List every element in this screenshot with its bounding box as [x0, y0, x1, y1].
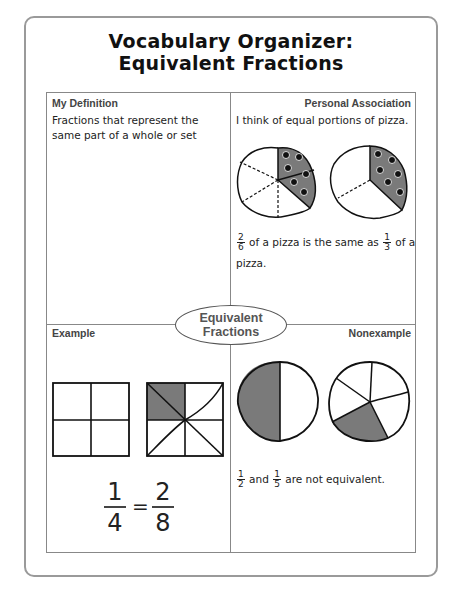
title-line-1: Vocabulary Organizer: [24, 30, 438, 52]
nonexample-sentence: 12 and 15 are not equivalent. [236, 470, 416, 489]
circle-halves-icon [234, 358, 322, 444]
equals-sign: = [132, 494, 146, 518]
fraction-two-eighths: 2 8 [152, 478, 174, 538]
fraction-one-third: 13 [383, 233, 391, 252]
association-label: Personal Association [236, 97, 411, 109]
center-term-line-2: Fractions [176, 325, 286, 339]
pizza-six-slices-icon [234, 140, 322, 222]
pizza-three-slices-icon [324, 140, 414, 222]
association-fraction-sentence: 26 of a pizza is the same as 13 of a [236, 233, 416, 252]
definition-label: My Definition [52, 97, 118, 109]
page-title: Vocabulary Organizer: Equivalent Fractio… [24, 30, 438, 74]
center-term-line-1: Equivalent [176, 311, 286, 325]
association-sentence-end: pizza. [236, 256, 266, 271]
definition-text: Fractions that represent the same part o… [52, 113, 224, 143]
square-fourths-icon [50, 380, 132, 460]
fraction-one-fourth: 1 4 [104, 478, 126, 538]
example-label: Example [52, 327, 95, 339]
center-term-oval: Equivalent Fractions [175, 305, 287, 345]
fraction-one-fifth: 15 [273, 470, 281, 489]
circle-fifths-icon [326, 358, 414, 444]
fraction-one-half: 12 [237, 470, 245, 489]
square-eighths-icon [144, 380, 226, 460]
fraction-two-sixths: 26 [237, 233, 245, 252]
title-line-2: Equivalent Fractions [24, 52, 438, 74]
association-text: I think of equal portions of pizza. [236, 113, 408, 128]
